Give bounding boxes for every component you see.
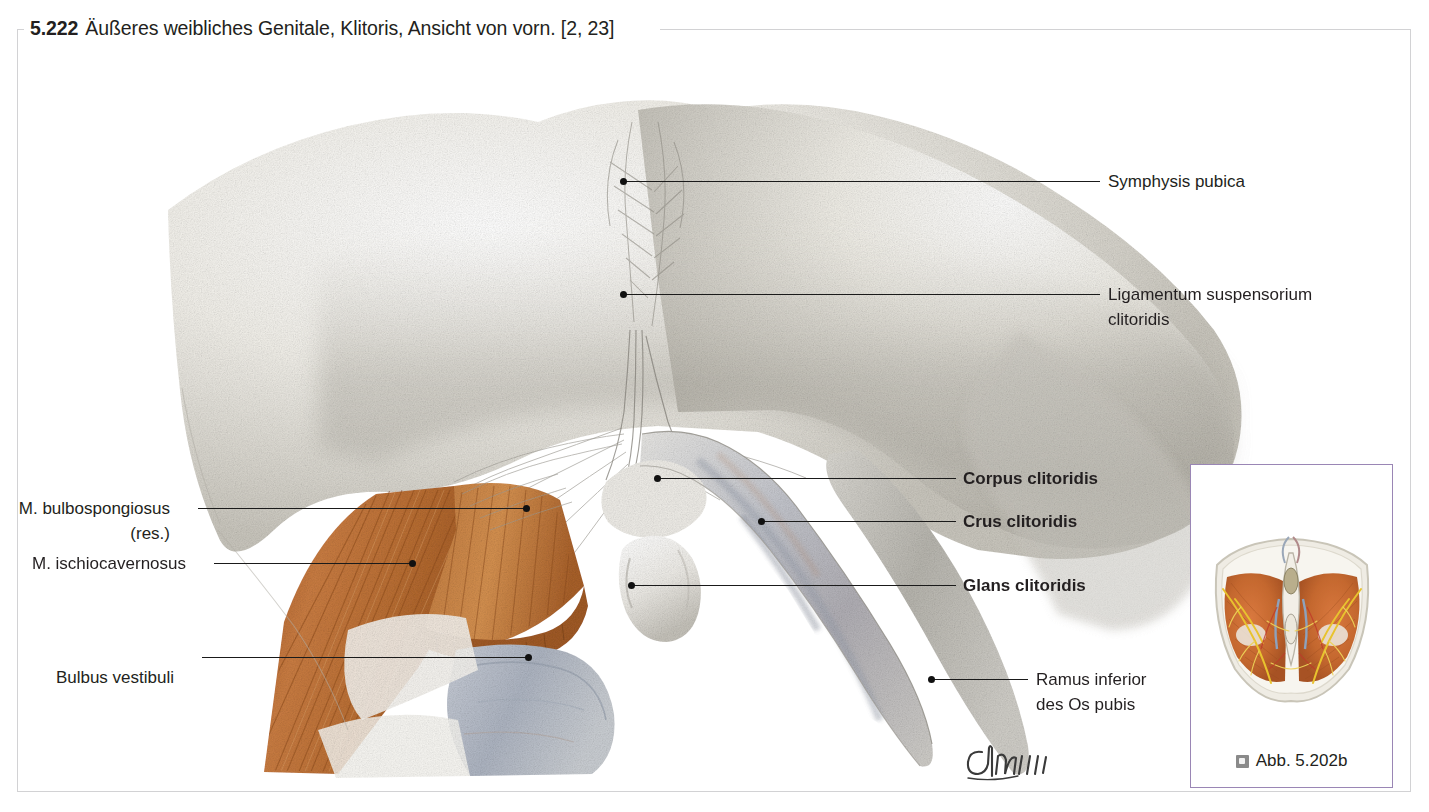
- inset-caption-text: Abb. 5.202b: [1256, 751, 1348, 771]
- label-bulbus-vestibuli: Bulbus vestibuli: [0, 665, 174, 690]
- leader-ramus-inferior: [930, 679, 1028, 680]
- leader-dot-ramus-inferior: [928, 676, 935, 683]
- label-ligamentum-suspensorium-clitoridis: Ligamentum suspensorium clitoridis: [1108, 282, 1312, 332]
- leader-dot-corpus-clitoridis: [654, 475, 661, 482]
- leader-dot-symphysis-pubica: [620, 178, 627, 185]
- leader-m-ischiocavernosus: [214, 563, 414, 564]
- leader-dot-m-bulbospongiosus: [523, 505, 530, 512]
- inset-square-icon: [1236, 755, 1249, 768]
- leader-corpus-clitoridis: [656, 478, 956, 479]
- label-corpus-clitoridis: Corpus clitoridis: [963, 466, 1098, 491]
- leader-ligamentum-suspensorium: [622, 294, 1100, 295]
- label-ramus-inferior-des-os-pubis: Ramus inferior des Os pubis: [1036, 667, 1147, 717]
- leader-dot-crus-clitoridis: [758, 518, 765, 525]
- leader-dot-m-ischiocavernosus: [409, 560, 416, 567]
- inset-thumbnail-perineal-section: [1201, 503, 1382, 728]
- artist-signature: [962, 742, 1052, 786]
- label-glans-clitoridis: Glans clitoridis: [963, 573, 1086, 598]
- leader-dot-bulbus-vestibuli: [525, 654, 532, 661]
- leader-dot-glans-clitoridis: [628, 582, 635, 589]
- label-symphysis-pubica: Symphysis pubica: [1108, 169, 1245, 194]
- leader-bulbus-vestibuli: [202, 657, 530, 658]
- label-m-ischiocavernosus: M. ischiocavernosus: [0, 551, 186, 576]
- leader-crus-clitoridis: [760, 521, 956, 522]
- label-m-bulbospongiosus: M. bulbospongiosus (res.): [0, 496, 170, 546]
- label-crus-clitoridis: Crus clitoridis: [963, 509, 1077, 534]
- leader-dot-ligamentum-suspensorium: [620, 291, 627, 298]
- inset-panel[interactable]: Abb. 5.202b: [1190, 464, 1393, 788]
- leader-symphysis-pubica: [622, 181, 1100, 182]
- leader-glans-clitoridis: [630, 585, 956, 586]
- inset-caption[interactable]: Abb. 5.202b: [1191, 751, 1392, 771]
- leader-m-bulbospongiosus: [198, 508, 528, 509]
